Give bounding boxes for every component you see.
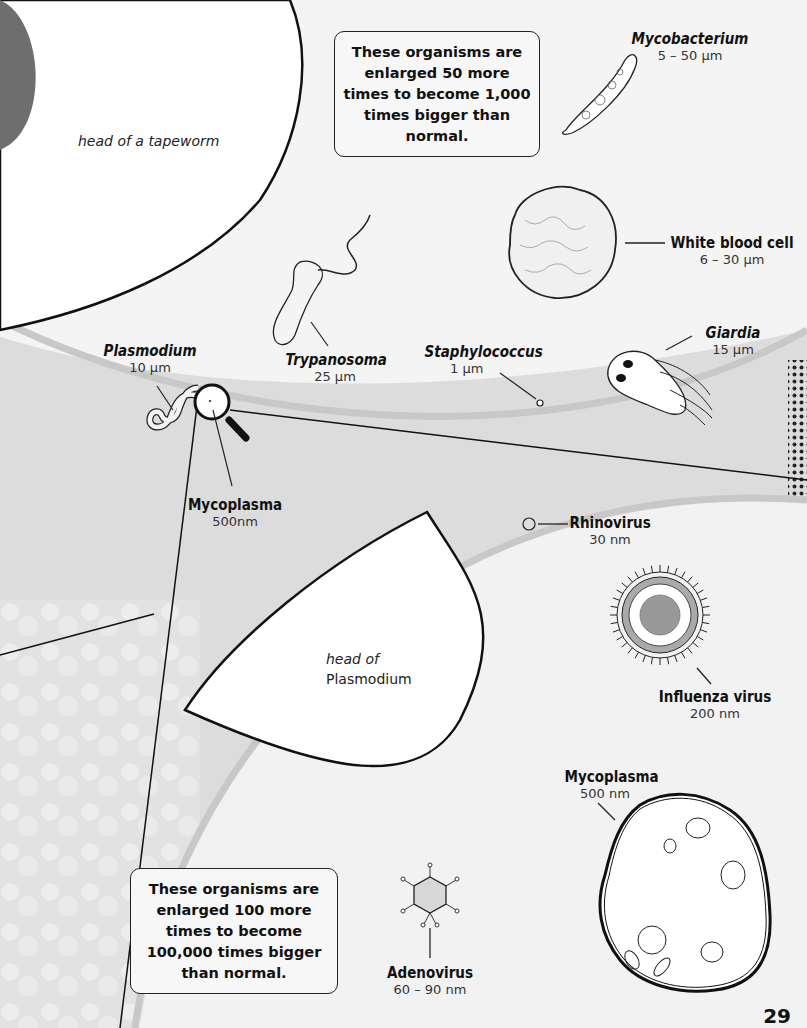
- diagram-page: These organisms are enlarged 50 more tim…: [0, 0, 807, 1028]
- label-mycoplasma-large: Mycoplasma 500 nm: [560, 768, 650, 802]
- label-mycobacterium: Mycobacterium 5 – 50 µm: [620, 30, 760, 64]
- label-giardia: Giardia 15 µm: [688, 324, 778, 358]
- label-plasmodium: Plasmodium 10 µm: [95, 342, 205, 376]
- info-box-100000x: These organisms are enlarged 100 more ti…: [130, 868, 338, 994]
- label-staphylococcus: Staphylococcus 1 µm: [418, 343, 548, 377]
- tapeworm-head-caption: head of a tapeworm: [78, 131, 219, 151]
- mycoplasma-large-illustration: [598, 794, 770, 991]
- label-influenza-virus: Influenza virus 200 nm: [650, 688, 780, 722]
- label-rhinovirus: Rhinovirus 30 nm: [565, 514, 655, 548]
- plasmodium-head-caption-line2: Plasmodium: [326, 669, 412, 689]
- plasmodium-head-caption: head of Plasmodium: [326, 649, 412, 689]
- label-trypanosoma: Trypanosoma 25 µm: [280, 351, 390, 385]
- label-mycoplasma-small: Mycoplasma 500nm: [180, 496, 290, 530]
- info-box-1000x: These organisms are enlarged 50 more tim…: [334, 31, 540, 157]
- label-white-blood-cell: White blood cell 6 – 30 µm: [662, 234, 802, 268]
- page-number: 29: [763, 1004, 791, 1028]
- label-adenovirus: Adenovirus 60 – 90 nm: [380, 964, 480, 998]
- plasmodium-head-caption-line1: head of: [326, 649, 412, 669]
